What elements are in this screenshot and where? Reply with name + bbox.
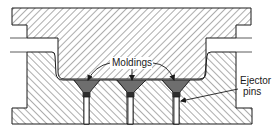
mold-diagram: Moldings Ejector pins <box>0 0 280 130</box>
ejector-label-line1: Ejector <box>240 75 272 86</box>
ejector-pin-3 <box>174 97 179 124</box>
ejector-label-line2: pins <box>243 86 261 97</box>
ejector-pin-2 <box>128 97 133 124</box>
ejector-pin-1 <box>84 97 89 124</box>
molding-1-plug <box>83 92 90 97</box>
moldings-label: Moldings <box>112 57 152 68</box>
molding-2-plug <box>127 92 134 97</box>
molding-3-plug <box>173 92 180 97</box>
